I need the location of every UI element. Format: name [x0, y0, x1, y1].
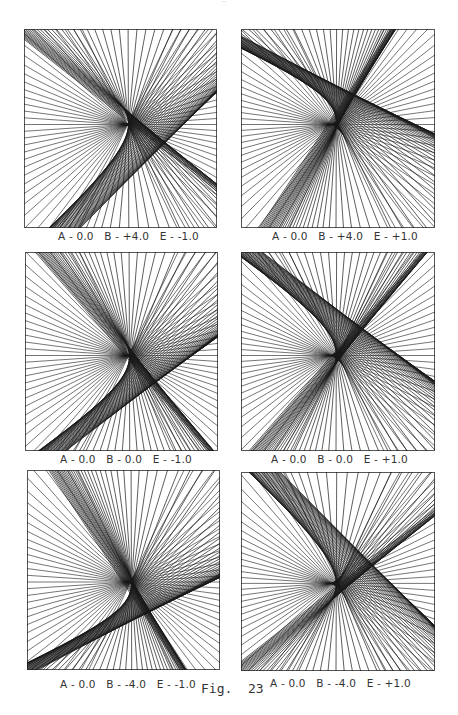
envelope-line	[105, 470, 152, 670]
fan-line	[50, 252, 200, 451]
envelope-line	[259, 472, 435, 631]
envelope-plot-3	[25, 252, 218, 451]
panel-caption-4: A - 0.0 B - 0.0 E - +1.0	[271, 453, 408, 465]
fan-line	[25, 285, 218, 435]
envelope-plot-4	[241, 252, 435, 451]
fan-line	[274, 29, 404, 228]
envelope-plot-2	[241, 29, 435, 228]
line-family	[24, 29, 217, 228]
line-family	[241, 29, 435, 228]
envelope-line	[131, 470, 132, 670]
panel-caption-5: A - 0.0 B - -4.0 E - -1.0	[60, 678, 196, 690]
panel-caption-1: A - 0.0 B - +4.0 E - -1.0	[58, 230, 199, 242]
fan-line	[279, 29, 391, 228]
envelope-plot-1	[24, 29, 217, 228]
line-envelope-panel-2	[241, 29, 435, 228]
fan-line	[79, 252, 174, 451]
line-envelope-panel-1	[24, 29, 217, 228]
envelope-line	[249, 472, 435, 647]
envelope-line	[269, 472, 435, 626]
line-family	[241, 472, 435, 671]
line-envelope-panel-5	[27, 470, 220, 670]
line-envelope-panel-3	[25, 252, 218, 451]
fan-line	[31, 501, 220, 670]
envelope-plot-6	[241, 472, 435, 671]
line-envelope-panel-6	[241, 472, 435, 671]
fan-line	[26, 252, 218, 448]
fan-line	[73, 470, 204, 670]
envelope-line	[69, 91, 218, 228]
line-envelope-panel-4	[241, 252, 435, 451]
fan-line	[24, 90, 217, 156]
envelope-line	[251, 472, 435, 641]
line-family	[241, 252, 435, 451]
envelope-line	[336, 472, 337, 671]
figure-label: Fig. 23	[201, 681, 264, 696]
panel-caption-6: A - 0.0 B - -4.0 E - +1.0	[270, 677, 411, 689]
panel-caption-3: A - 0.0 B - 0.0 E - -1.0	[60, 453, 192, 465]
line-family	[25, 252, 218, 451]
fan-line	[269, 29, 399, 228]
line-family	[27, 470, 220, 670]
page-mark: ··	[222, 0, 226, 6]
envelope-plot-5	[27, 470, 220, 670]
envelope-line	[248, 252, 435, 433]
fan-line	[89, 470, 185, 670]
panel-caption-2: A - 0.0 B - +4.0 E - +1.0	[272, 230, 418, 242]
